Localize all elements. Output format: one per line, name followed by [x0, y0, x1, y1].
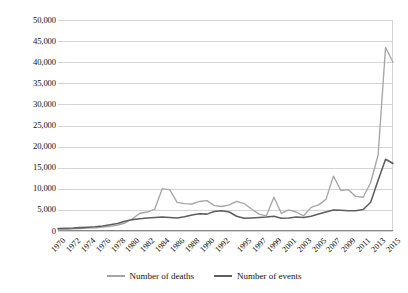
y-axis-tick-label: 20,000	[33, 142, 56, 151]
chart-container: 50,00045,00040,00035,00030,00025,00020,0…	[0, 0, 408, 293]
y-axis-tick-label: 45,000	[33, 37, 56, 46]
legend-label-events: Number of events	[237, 271, 301, 281]
plot-area	[58, 20, 393, 231]
series-lines	[58, 20, 393, 231]
y-axis-tick-label: 40,000	[33, 58, 56, 67]
y-axis-tick-label: 30,000	[33, 100, 56, 109]
legend-label-deaths: Number of deaths	[130, 271, 194, 281]
y-axis-tick-label: 50,000	[33, 16, 56, 25]
y-axis-tick-label: 25,000	[33, 121, 56, 130]
y-axis-tick-label: 10,000	[33, 184, 56, 193]
chart-legend: Number of deathsNumber of events	[0, 271, 408, 281]
y-axis-tick-label: 5,000	[37, 205, 56, 214]
y-axis-tick-label: 15,000	[33, 163, 56, 172]
legend-item-deaths[interactable]: Number of deaths	[107, 271, 194, 281]
legend-item-events[interactable]: Number of events	[214, 271, 301, 281]
gridline	[58, 231, 393, 232]
line-number-of-events	[58, 159, 393, 228]
y-axis-tick-label: 35,000	[33, 79, 56, 88]
y-axis-tick-label: 0	[52, 227, 56, 236]
line-number-of-deaths	[58, 47, 393, 229]
legend-swatch-deaths	[107, 275, 125, 277]
legend-swatch-events	[214, 275, 232, 277]
